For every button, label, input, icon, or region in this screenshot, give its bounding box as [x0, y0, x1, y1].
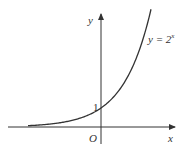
x-axis-label: x [167, 132, 173, 144]
exponential-graph: y x O 1 y = 2x [0, 0, 193, 155]
function-label: y = 2x [147, 32, 175, 45]
origin-label: O [89, 132, 97, 144]
exponential-curve [28, 9, 151, 125]
y-axis-label: y [87, 14, 93, 26]
function-label-exponent: x [170, 32, 175, 40]
y-intercept-label: 1 [93, 101, 99, 113]
function-label-base: y = 2 [147, 33, 172, 45]
